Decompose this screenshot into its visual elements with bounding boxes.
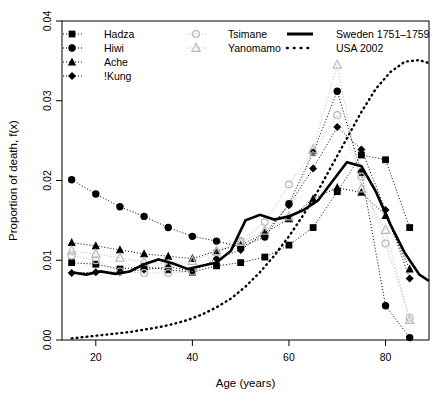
x-tick-label: 40 bbox=[187, 351, 199, 363]
legend-label: Hadza bbox=[104, 28, 135, 40]
series-line bbox=[72, 91, 410, 337]
legend-item[interactable]: Tsimane bbox=[187, 28, 267, 40]
data-point bbox=[334, 112, 341, 119]
legend-item[interactable]: !Kung bbox=[63, 70, 132, 82]
x-tick-label: 80 bbox=[380, 351, 392, 363]
data-point bbox=[333, 183, 341, 191]
legend-item[interactable]: Hiwi bbox=[63, 42, 124, 54]
legend-label: Yanomamo bbox=[228, 42, 281, 54]
legend-item[interactable]: Yanomamo bbox=[187, 42, 281, 54]
data-point bbox=[382, 156, 389, 163]
legend-marker bbox=[68, 57, 76, 65]
data-point bbox=[261, 219, 268, 226]
data-point bbox=[68, 176, 75, 183]
legend-label: Tsimane bbox=[228, 28, 267, 40]
data-point bbox=[140, 213, 147, 220]
data-point bbox=[68, 246, 76, 254]
x-axis-title: Age (years) bbox=[216, 377, 276, 389]
data-point bbox=[286, 242, 293, 249]
chart-container: 204060800.000.010.020.030.04Age (years)P… bbox=[0, 0, 436, 404]
legend-label: Hiwi bbox=[104, 42, 124, 54]
legend-item[interactable]: Sweden 1751–1759 bbox=[287, 28, 430, 40]
legend-item[interactable]: Hadza bbox=[63, 28, 135, 40]
data-point bbox=[92, 190, 99, 197]
series--kung bbox=[68, 123, 414, 283]
legend: HadzaHiwiAche!KungTsimaneYanomamoSweden … bbox=[62, 21, 430, 82]
data-point bbox=[189, 233, 196, 240]
data-point bbox=[286, 181, 293, 188]
data-point bbox=[165, 224, 172, 231]
series-line bbox=[72, 162, 429, 281]
series-line bbox=[72, 60, 429, 338]
series-yanomamo bbox=[68, 60, 414, 323]
chart-svg: 204060800.000.010.020.030.04Age (years)P… bbox=[0, 0, 436, 404]
data-point bbox=[261, 254, 268, 261]
y-axis-title: Proportion of death, f(x) bbox=[7, 120, 19, 241]
series-hiwi bbox=[68, 87, 413, 341]
legend-label: USA 2002 bbox=[336, 42, 383, 54]
legend-item[interactable]: Ache bbox=[63, 56, 128, 68]
y-tick-label: 0.03 bbox=[41, 90, 53, 111]
data-point bbox=[333, 60, 341, 68]
legend-marker bbox=[69, 31, 76, 38]
data-point bbox=[406, 275, 414, 283]
y-tick-label: 0.00 bbox=[41, 330, 53, 351]
data-point bbox=[310, 224, 317, 231]
data-point bbox=[382, 240, 389, 247]
data-point bbox=[309, 165, 317, 173]
data-point bbox=[68, 259, 75, 266]
y-tick-label: 0.04 bbox=[41, 11, 53, 32]
legend-item[interactable]: USA 2002 bbox=[287, 42, 383, 54]
x-tick-label: 20 bbox=[90, 351, 102, 363]
legend-label: !Kung bbox=[104, 70, 132, 82]
y-tick-label: 0.02 bbox=[41, 170, 53, 191]
series-line bbox=[72, 115, 410, 318]
data-point bbox=[237, 259, 244, 266]
legend-label: Sweden 1751–1759 bbox=[336, 28, 430, 40]
data-point bbox=[406, 224, 413, 231]
legend-marker bbox=[68, 72, 76, 80]
x-tick-label: 60 bbox=[283, 351, 295, 363]
legend-marker bbox=[68, 44, 75, 51]
data-point bbox=[213, 237, 220, 244]
data-point bbox=[116, 203, 123, 210]
data-point bbox=[68, 252, 75, 259]
series-sweden-1751-1759 bbox=[72, 162, 429, 281]
series-usa-2002 bbox=[72, 60, 429, 338]
legend-label: Ache bbox=[104, 56, 128, 68]
data-point bbox=[382, 302, 389, 309]
data-point bbox=[334, 87, 341, 94]
y-tick-label: 0.01 bbox=[41, 250, 53, 271]
data-point bbox=[406, 334, 413, 341]
legend-marker bbox=[192, 43, 200, 51]
